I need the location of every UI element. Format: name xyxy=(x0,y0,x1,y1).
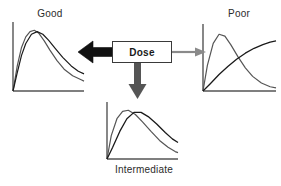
chart-panel-poor xyxy=(196,22,280,96)
series-line-good-2 xyxy=(13,32,84,91)
series-line-poor-peak-early xyxy=(203,34,276,91)
chart-svg-poor xyxy=(196,22,280,96)
series-line-poor-slow-rise xyxy=(203,41,276,91)
arrow-to-poor-icon xyxy=(170,44,208,60)
dose-node[interactable]: Dose xyxy=(112,41,172,63)
chart-svg-intermediate xyxy=(100,100,184,164)
figure-canvas: Good Poor Intermediate xyxy=(0,0,281,186)
arrow-to-poor xyxy=(170,44,208,60)
series-line-intermediate-late xyxy=(107,112,178,159)
panel-label-poor: Poor xyxy=(206,8,272,19)
dose-node-label: Dose xyxy=(129,47,155,58)
panel-label-good: Good xyxy=(14,8,86,19)
panel-label-intermediate: Intermediate xyxy=(98,164,190,175)
arrow-to-good xyxy=(78,38,116,66)
arrow-to-intermediate-icon xyxy=(126,62,150,100)
arrow-to-good-icon xyxy=(78,38,116,66)
arrow-to-intermediate xyxy=(126,62,150,100)
chart-panel-intermediate xyxy=(100,100,184,164)
